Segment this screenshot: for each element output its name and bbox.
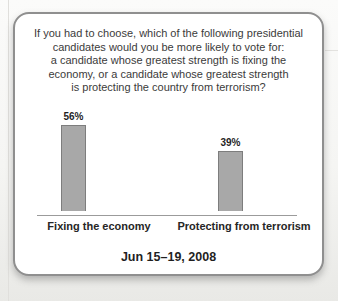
bar-group-fixing-economy: 56%: [61, 111, 86, 211]
poll-question-line: candidates would you be more likely to v…: [23, 41, 314, 55]
bar-protecting-terrorism: [218, 151, 243, 211]
bar-group-protecting-terrorism: 39%: [218, 137, 243, 211]
bar-value-label: 56%: [63, 111, 83, 122]
poll-question: If you had to choose, which of the follo…: [23, 27, 314, 95]
survey-date-label: Jun 15–19, 2008: [15, 250, 322, 264]
scan-edge-vertical-line: [8, 0, 9, 301]
poll-result-card: If you had to choose, which of the follo…: [13, 12, 324, 276]
page-background: If you had to choose, which of the follo…: [0, 0, 338, 301]
scan-edge-horizontal-line: [325, 50, 338, 51]
poll-question-line: If you had to choose, which of the follo…: [23, 27, 314, 41]
poll-question-line: a candidate whose greatest strength is f…: [23, 54, 314, 68]
poll-question-line: economy, or a candidate whose greatest s…: [23, 68, 314, 82]
poll-question-line: is protecting the country from terrorism…: [23, 81, 314, 95]
bar-fixing-economy: [61, 125, 86, 211]
category-label-fixing-economy: Fixing the economy: [47, 220, 150, 232]
bar-value-label: 39%: [220, 137, 240, 148]
x-axis-line: [37, 215, 297, 216]
category-label-protecting-terrorism: Protecting from terrorism: [177, 220, 310, 232]
